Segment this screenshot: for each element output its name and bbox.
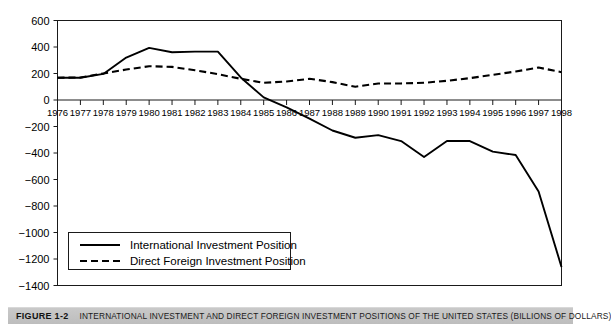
y-tick-label: −1000 bbox=[19, 227, 50, 239]
line-chart: 6004002000−200−400−600−800−1000−1200−140… bbox=[0, 0, 581, 300]
y-tick-label: −800 bbox=[25, 200, 50, 212]
y-tick-label: −1200 bbox=[19, 253, 50, 265]
y-tick-label: −600 bbox=[25, 174, 50, 186]
x-tick-label: 1976 bbox=[47, 107, 68, 118]
x-tick-label: 1990 bbox=[368, 107, 389, 118]
x-tick-label: 1996 bbox=[505, 107, 526, 118]
x-tick-label: 1978 bbox=[93, 107, 114, 118]
x-tick-label: 1987 bbox=[299, 107, 320, 118]
y-tick-label: −400 bbox=[25, 147, 50, 159]
x-tick-label: 1994 bbox=[459, 107, 480, 118]
legend-label: Direct Foreign Investment Position bbox=[130, 255, 306, 267]
figure-caption-text: INTERNATIONAL INVESTMENT AND DIRECT FORE… bbox=[80, 311, 611, 321]
chart-legend: International Investment PositionDirect … bbox=[69, 233, 306, 270]
x-tick-label: 1998 bbox=[551, 107, 572, 118]
legend-label: International Investment Position bbox=[130, 239, 297, 251]
figure-number-label: FIGURE 1-2 bbox=[16, 311, 69, 321]
x-tick-label: 1977 bbox=[70, 107, 91, 118]
y-axis-ticks bbox=[54, 21, 58, 286]
y-tick-label: 400 bbox=[31, 41, 49, 53]
y-tick-label: −200 bbox=[25, 121, 50, 133]
x-tick-label: 1991 bbox=[391, 107, 412, 118]
x-tick-label: 1981 bbox=[161, 107, 182, 118]
x-tick-label: 1995 bbox=[482, 107, 503, 118]
x-tick-label: 1988 bbox=[322, 107, 343, 118]
x-tick-label: 1989 bbox=[345, 107, 366, 118]
y-tick-label: 0 bbox=[43, 94, 49, 106]
x-tick-label: 1985 bbox=[253, 107, 274, 118]
x-tick-label: 1986 bbox=[276, 107, 297, 118]
x-tick-label: 1982 bbox=[184, 107, 205, 118]
chart-plot-area: 6004002000−200−400−600−800−1000−1200−140… bbox=[0, 0, 581, 300]
x-tick-label: 1980 bbox=[139, 107, 160, 118]
x-axis-tick-labels: 1976197719781979198019811982198319841985… bbox=[47, 107, 572, 118]
y-tick-label: −1400 bbox=[19, 280, 50, 292]
y-tick-label: 200 bbox=[31, 68, 49, 80]
x-tick-label: 1983 bbox=[207, 107, 228, 118]
y-axis-tick-labels: 6004002000−200−400−600−800−1000−1200−140… bbox=[19, 15, 50, 292]
figure-caption-bar: FIGURE 1-2 INTERNATIONAL INVESTMENT AND … bbox=[8, 307, 573, 324]
x-tick-label: 1979 bbox=[116, 107, 137, 118]
x-tick-label: 1993 bbox=[436, 107, 457, 118]
y-tick-label: 600 bbox=[31, 15, 49, 27]
x-tick-label: 1992 bbox=[413, 107, 434, 118]
x-tick-label: 1997 bbox=[528, 107, 549, 118]
x-tick-label: 1984 bbox=[230, 107, 251, 118]
